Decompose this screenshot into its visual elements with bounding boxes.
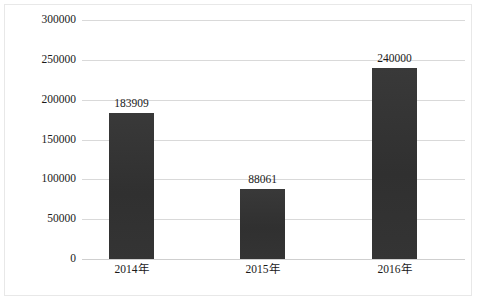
x-tick-label-2015: 2015年 [246,264,280,276]
bar-chart: 300000 250000 200000 150000 100000 50000… [0,0,477,301]
bar-value-2015: 88061 [248,174,277,186]
x-axis-labels: 2014年 2015年 2016年 [82,264,465,284]
y-tick-label-200000: 200000 [0,94,76,106]
x-tick-label-2014: 2014年 [115,264,149,276]
y-tick-label-150000: 150000 [0,134,76,146]
y-tick-label-0: 0 [0,253,76,265]
bar-2015[interactable] [240,189,285,259]
bars-layer: 183909 88061 240000 [82,0,465,301]
y-tick-label-250000: 250000 [0,54,76,66]
y-tick-label-100000: 100000 [0,174,76,186]
y-axis-labels: 300000 250000 200000 150000 100000 50000… [0,0,76,301]
x-tick-label-2016: 2016年 [378,264,412,276]
y-tick-label-300000: 300000 [0,14,76,26]
bar-2014[interactable] [109,113,154,260]
bar-2016[interactable] [372,68,417,259]
bar-value-2016: 240000 [377,53,412,65]
y-tick-label-50000: 50000 [0,213,76,225]
bar-value-2014: 183909 [114,98,149,110]
